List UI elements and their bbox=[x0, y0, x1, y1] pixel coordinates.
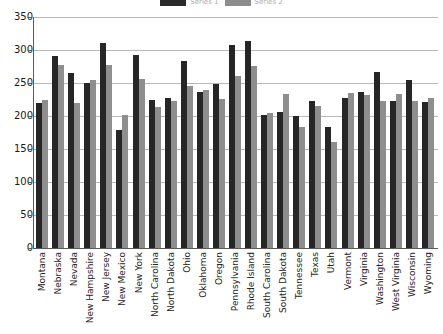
x-axis-label-cell: New Hampshire bbox=[82, 250, 98, 334]
bar bbox=[315, 106, 321, 248]
x-axis-tick-label: West Virginia bbox=[391, 252, 400, 311]
bar-group bbox=[179, 17, 195, 248]
y-axis-tick-mark bbox=[28, 116, 32, 117]
bar-group bbox=[259, 17, 275, 248]
y-axis-tick-mark bbox=[28, 17, 32, 18]
x-axis-tick-label: North Dakota bbox=[166, 252, 175, 312]
legend-label-series-1: Series 1 bbox=[190, 0, 218, 6]
y-axis-tick-mark bbox=[28, 83, 32, 84]
x-axis-label-cell: Tennessee bbox=[291, 250, 307, 334]
bar bbox=[42, 100, 48, 249]
bar-group bbox=[291, 17, 307, 248]
x-axis-label-cell: Vermont bbox=[339, 250, 355, 334]
bar bbox=[267, 113, 273, 248]
bar bbox=[58, 65, 64, 248]
bar bbox=[428, 98, 434, 248]
x-axis-label-cell: West Virginia bbox=[388, 250, 404, 334]
legend-item-series-1: Series 1 bbox=[160, 0, 218, 6]
x-axis-tick-label: Washington bbox=[375, 252, 384, 305]
bar bbox=[106, 65, 112, 248]
y-axis: 050100150200250300350 bbox=[0, 0, 33, 334]
x-axis-label-cell: Texas bbox=[307, 250, 323, 334]
x-axis-tick-label: Virginia bbox=[359, 252, 368, 286]
x-axis-label-cell: Rhode Island bbox=[243, 250, 259, 334]
bar bbox=[396, 94, 402, 248]
x-axis-tick-label: New Mexico bbox=[118, 252, 127, 306]
x-axis-tick-label: Texas bbox=[311, 252, 320, 277]
x-axis-tick-label: Wyoming bbox=[423, 252, 432, 294]
bar bbox=[283, 94, 289, 248]
bar bbox=[74, 103, 80, 248]
x-axis-label-cell: South Dakota bbox=[275, 250, 291, 334]
bar bbox=[203, 90, 209, 248]
x-axis-label-cell: Washington bbox=[372, 250, 388, 334]
y-axis-tick-mark bbox=[28, 50, 32, 51]
x-axis-tick-label: Rhode Island bbox=[247, 252, 256, 310]
bar-group bbox=[356, 17, 372, 248]
bar bbox=[364, 95, 370, 248]
bar-group bbox=[275, 17, 291, 248]
x-axis-label-cell: New Mexico bbox=[114, 250, 130, 334]
x-axis-tick-label: New Hampshire bbox=[86, 252, 95, 323]
legend-item-series-2: Series 2 bbox=[225, 0, 283, 6]
bar-group bbox=[211, 17, 227, 248]
x-axis-label-cell: Oklahoma bbox=[195, 250, 211, 334]
bar-group bbox=[98, 17, 114, 248]
bar bbox=[139, 79, 145, 248]
x-axis-label-cell: Ohio bbox=[179, 250, 195, 334]
y-axis-tick-mark bbox=[28, 215, 32, 216]
bar-group bbox=[323, 17, 339, 248]
bar-group bbox=[130, 17, 146, 248]
bar bbox=[412, 101, 418, 248]
bar-group bbox=[339, 17, 355, 248]
bar-group bbox=[163, 17, 179, 248]
x-axis-tick-label: Oregon bbox=[214, 252, 223, 285]
bars-layer bbox=[33, 17, 437, 248]
bar bbox=[171, 101, 177, 248]
bar bbox=[348, 93, 354, 248]
bar bbox=[251, 66, 257, 248]
x-axis-label-cell: Oregon bbox=[211, 250, 227, 334]
x-axis-label-cell: South Carolina bbox=[259, 250, 275, 334]
x-axis-tick-label: Tennessee bbox=[295, 252, 304, 299]
x-axis-label-cell: New York bbox=[130, 250, 146, 334]
x-axis-label-cell: Nebraska bbox=[50, 250, 66, 334]
x-axis-tick-label: South Dakota bbox=[279, 252, 288, 313]
x-axis-tick-label: Vermont bbox=[343, 252, 352, 290]
x-axis-tick-label: Ohio bbox=[182, 252, 191, 273]
bar bbox=[155, 107, 161, 248]
x-axis-tick-label: Utah bbox=[327, 252, 336, 273]
bar bbox=[219, 99, 225, 248]
x-axis-label-cell: Virginia bbox=[356, 250, 372, 334]
bar bbox=[122, 115, 128, 248]
chart-legend: Series 1 Series 2 bbox=[0, 0, 443, 8]
x-axis-label-cell: North Carolina bbox=[147, 250, 163, 334]
bar-chart: Series 1 Series 2 050100150200250300350 … bbox=[0, 0, 443, 334]
legend-swatch-series-2 bbox=[225, 0, 251, 6]
bar-group bbox=[307, 17, 323, 248]
bar-group bbox=[66, 17, 82, 248]
x-axis-tick-label: Oklahoma bbox=[198, 252, 207, 298]
x-axis-label-cell: Wisconsin bbox=[404, 250, 420, 334]
x-axis-tick-label: Pennsylvania bbox=[230, 252, 239, 311]
x-axis-label-cell: Wyoming bbox=[420, 250, 436, 334]
x-axis-tick-label: Nevada bbox=[70, 252, 79, 286]
bar bbox=[299, 127, 305, 248]
bar-group bbox=[34, 17, 50, 248]
x-axis-labels: MontanaNebraskaNevadaNew HampshireNew Je… bbox=[33, 250, 437, 334]
x-axis-tick-label: South Carolina bbox=[263, 252, 272, 318]
bar-group bbox=[195, 17, 211, 248]
x-axis-tick-label: New Jersey bbox=[102, 252, 111, 302]
bar-group bbox=[82, 17, 98, 248]
bar bbox=[187, 86, 193, 248]
bar bbox=[380, 101, 386, 248]
x-axis-tick-label: Nebraska bbox=[54, 252, 63, 294]
bar-group bbox=[50, 17, 66, 248]
bar-group bbox=[420, 17, 436, 248]
bar-group bbox=[243, 17, 259, 248]
x-axis-tick-label: New York bbox=[134, 252, 143, 293]
y-axis-tick-mark bbox=[28, 182, 32, 183]
bar-group bbox=[114, 17, 130, 248]
legend-swatch-series-1 bbox=[160, 0, 186, 6]
bar-group bbox=[147, 17, 163, 248]
